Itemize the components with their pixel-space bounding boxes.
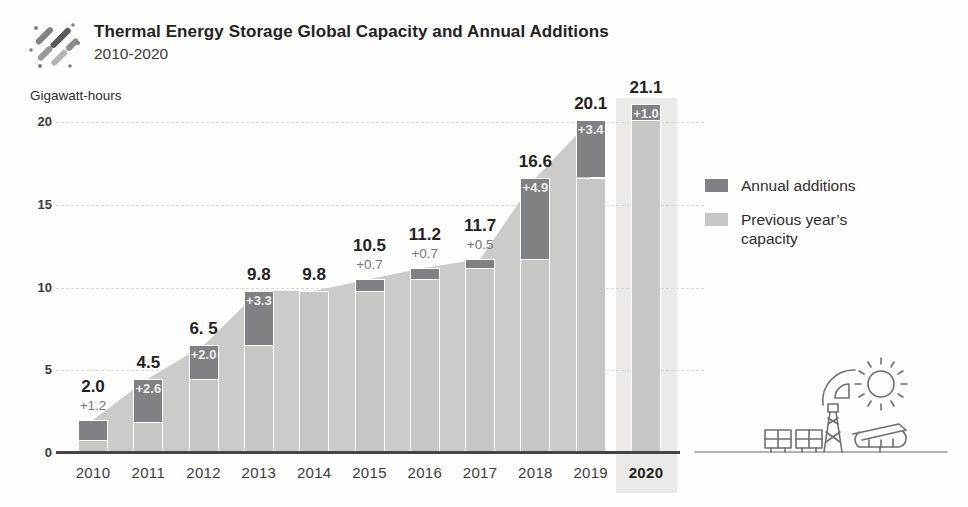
total-label-2019: 20.1 bbox=[559, 95, 623, 113]
x-tick-label-2015: 2015 bbox=[343, 464, 397, 481]
addition-label-2019: +3.4 bbox=[576, 122, 606, 137]
renewables-illustration bbox=[693, 348, 950, 458]
x-tick-label-2010: 2010 bbox=[66, 464, 120, 481]
bar-segment-previous-2012 bbox=[189, 379, 219, 453]
x-tick-label-2017: 2017 bbox=[453, 464, 507, 481]
x-tick-label-2019: 2019 bbox=[564, 464, 618, 481]
sun-icon bbox=[855, 358, 907, 410]
chart-page: Thermal Energy Storage Global Capacity a… bbox=[0, 0, 968, 507]
legend-item-previous-capacity: Previous year’s capacity bbox=[705, 210, 871, 248]
legend-item-annual-additions: Annual additions bbox=[705, 176, 871, 195]
x-tick-label-2020: 2020 bbox=[619, 464, 673, 481]
bar-segment-addition-2010 bbox=[78, 420, 108, 440]
legend-label: Previous year’s capacity bbox=[741, 210, 871, 248]
bar-segment-addition-2016 bbox=[410, 268, 440, 280]
previous-capacity-swatch-icon bbox=[705, 213, 728, 226]
total-label-2010: 2.0 bbox=[61, 378, 125, 396]
x-tick-label-2012: 2012 bbox=[177, 464, 231, 481]
addition-label-2010: +1.2 bbox=[61, 398, 125, 414]
solar-panel-icon bbox=[765, 430, 791, 452]
total-label-2011: 4.5 bbox=[116, 354, 180, 372]
x-axis-line bbox=[56, 451, 680, 454]
total-label-2017: 11.7 bbox=[448, 217, 512, 235]
bar-segment-previous-2011 bbox=[133, 422, 163, 453]
transmission-tower-icon bbox=[824, 404, 842, 452]
parabolic-trough-icon bbox=[853, 424, 906, 452]
bar-segment-previous-2015 bbox=[355, 291, 385, 453]
bar-segment-previous-2020 bbox=[631, 120, 661, 453]
addition-label-2012: +2.0 bbox=[189, 347, 219, 362]
bar-segment-previous-2014 bbox=[299, 291, 329, 453]
solar-collector-dish-icon bbox=[823, 370, 855, 405]
bar-segment-previous-2013 bbox=[244, 345, 274, 453]
addition-label-2018: +4.9 bbox=[520, 180, 550, 195]
x-tick-label-2016: 2016 bbox=[398, 464, 452, 481]
bar-segment-addition-2017 bbox=[465, 259, 495, 267]
bar-segment-previous-2019 bbox=[576, 178, 606, 453]
bar-segment-previous-2018 bbox=[520, 259, 550, 453]
annual-additions-swatch-icon bbox=[705, 179, 728, 192]
addition-label-2011: +2.6 bbox=[133, 381, 163, 396]
x-tick-label-2011: 2011 bbox=[121, 464, 175, 481]
addition-label-2020: +1.0 bbox=[631, 106, 661, 121]
x-tick-label-2013: 2013 bbox=[232, 464, 286, 481]
addition-label-2013: +3.3 bbox=[244, 293, 274, 308]
total-label-2018: 16.6 bbox=[503, 153, 567, 171]
x-tick-label-2018: 2018 bbox=[508, 464, 562, 481]
legend: Annual additions Previous year’s capacit… bbox=[705, 176, 871, 248]
solar-panel-icon bbox=[796, 430, 822, 452]
total-label-2020: 21.1 bbox=[614, 79, 678, 97]
total-label-2012: 6. 5 bbox=[172, 320, 236, 338]
addition-label-2017: +0.5 bbox=[448, 237, 512, 253]
legend-label: Annual additions bbox=[741, 176, 871, 195]
bar-segment-previous-2016 bbox=[410, 279, 440, 453]
sun-rays bbox=[855, 358, 907, 410]
bar-segment-addition-2015 bbox=[355, 279, 385, 291]
bar-segment-previous-2017 bbox=[465, 268, 495, 453]
x-tick-label-2014: 2014 bbox=[287, 464, 341, 481]
